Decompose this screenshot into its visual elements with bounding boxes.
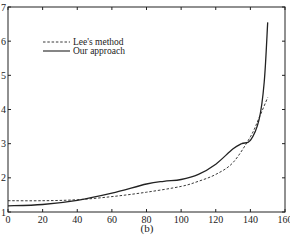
- legend: Lee's methodOur approach: [43, 37, 125, 56]
- x-tick-label: 20: [38, 214, 48, 225]
- y-tick-label: 2: [1, 172, 6, 183]
- x-tick-label: 40: [72, 214, 82, 225]
- y-tick-label: 6: [1, 36, 6, 47]
- x-tick-label: 120: [208, 214, 223, 225]
- y-tick-label: 3: [1, 138, 6, 149]
- y-tick-label: 5: [1, 70, 6, 81]
- y-tick-label: 1: [1, 207, 6, 218]
- x-tick-label: 60: [107, 214, 117, 225]
- line-chart: 020406080100120140160 1234567 Lee's meth…: [0, 0, 290, 238]
- x-tick-label: 160: [278, 214, 291, 225]
- series-line-lees-method: [8, 98, 268, 201]
- x-tick-label: 140: [243, 214, 258, 225]
- y-tick-label: 7: [1, 2, 6, 13]
- x-tick-label: 0: [6, 214, 11, 225]
- series-line-our-approach: [8, 22, 268, 205]
- y-tick-label: 4: [1, 104, 6, 115]
- plot-frame: [8, 7, 285, 212]
- legend-label: Our approach: [73, 46, 125, 56]
- series-group: [8, 22, 268, 205]
- figure-caption: (b): [141, 222, 154, 235]
- x-axis: 020406080100120140160: [6, 7, 291, 225]
- x-tick-label: 100: [174, 214, 189, 225]
